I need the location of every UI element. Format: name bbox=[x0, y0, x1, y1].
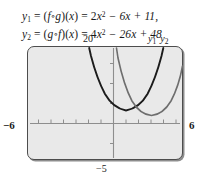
equation-2-arg-open: )( bbox=[61, 28, 69, 40]
equation-1-remainder: − 6x + 11, bbox=[106, 10, 159, 22]
x-max-label: 6 bbox=[189, 119, 195, 131]
equation-2-equals-open: = ( bbox=[31, 28, 47, 40]
graphing-calculator-plot bbox=[27, 46, 183, 160]
equation-line-1: y1 = (f∘g)(x) = 2x2 − 6x + 11, bbox=[22, 8, 192, 26]
equation-1-close: ) = 2 bbox=[74, 10, 96, 22]
curve-label-y1-subscript: 1 bbox=[152, 37, 156, 46]
curve-label-y1: y1 bbox=[148, 33, 156, 46]
x-axis-ticks bbox=[39, 120, 177, 124]
y-max-label: 20 bbox=[83, 33, 93, 44]
curve-y2 bbox=[117, 48, 183, 116]
curve-label-y2: y2 bbox=[160, 33, 168, 46]
curve-label-y2-subscript: 2 bbox=[165, 37, 169, 46]
x-min-label: −6 bbox=[3, 119, 15, 131]
equation-1-arg-open: )( bbox=[61, 10, 69, 22]
equation-1-equals-open: = ( bbox=[31, 10, 47, 22]
curve-y1 bbox=[89, 48, 163, 111]
y-min-label: −5 bbox=[96, 163, 107, 174]
plot-canvas bbox=[27, 46, 183, 160]
curve-legend: y1y2 bbox=[148, 33, 168, 46]
